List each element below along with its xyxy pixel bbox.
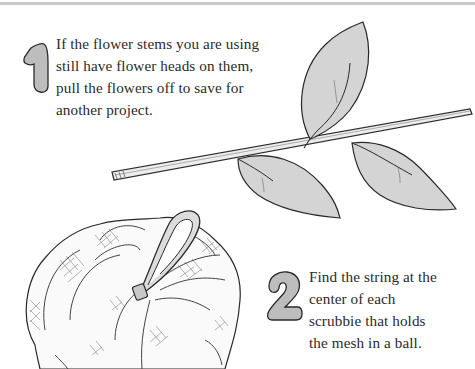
step-2-line: center of each	[309, 288, 475, 310]
step-1-line: another project.	[56, 99, 306, 121]
step-2-line: Find the string at the	[309, 266, 475, 288]
step-1-line: still have flower heads on them,	[56, 55, 306, 77]
step-number-1-icon	[22, 42, 52, 94]
step-2-text: Find the string at the center of each sc…	[309, 266, 475, 354]
step-2-line: the mesh in a ball.	[309, 332, 475, 354]
step-1-line: If the flower stems you are using	[56, 33, 306, 55]
step-1-text: If the flower stems you are using still …	[56, 33, 306, 121]
mesh-scrubbie-illustration	[26, 211, 240, 369]
step-2-line: scrubbie that holds	[309, 310, 475, 332]
step-1-line: pull the flowers off to save for	[56, 77, 306, 99]
step-number-2-icon	[265, 270, 303, 322]
